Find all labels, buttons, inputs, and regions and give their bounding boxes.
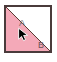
screenshot-canvas: A B — [0, 0, 57, 62]
region-a-label: A — [19, 19, 25, 28]
region-b-label: B — [38, 41, 44, 50]
square-shape-frame[interactable]: A B — [4, 5, 52, 53]
